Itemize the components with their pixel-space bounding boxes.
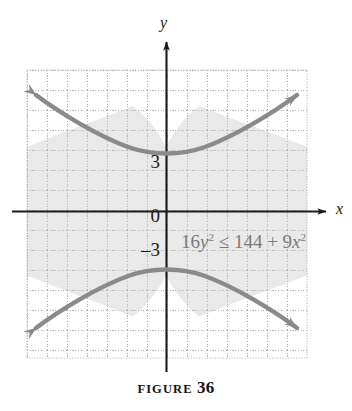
y-tick-label-0: 0	[136, 205, 160, 227]
figure-caption-number: 36	[197, 378, 215, 397]
eq-plus: +	[267, 231, 278, 252]
y-tick-label-3: 3	[136, 151, 160, 173]
eq-coef-x: 9	[283, 231, 293, 252]
figure-caption-word: FIGURE	[137, 382, 192, 396]
y-axis-label: y	[160, 14, 167, 32]
inequality-annotation: 16y2 ≤ 144 + 9x2	[181, 232, 306, 251]
hyperbola-inequality-plot	[0, 0, 352, 411]
figure-caption: FIGURE 36	[0, 378, 352, 398]
eq-exp-y: 2	[208, 231, 214, 243]
x-axis-label: x	[336, 200, 343, 218]
eq-constant: 144	[234, 231, 263, 252]
eq-coef-y: 16	[181, 231, 200, 252]
eq-var-x: x	[292, 231, 300, 252]
y-tick-label-neg3: –3	[128, 239, 160, 261]
eq-exp-x: 2	[301, 231, 307, 243]
eq-relation: ≤	[219, 231, 229, 252]
figure-container: y x 3 0 –3 16y2 ≤ 144 + 9x2 FIGURE 36	[0, 0, 352, 411]
